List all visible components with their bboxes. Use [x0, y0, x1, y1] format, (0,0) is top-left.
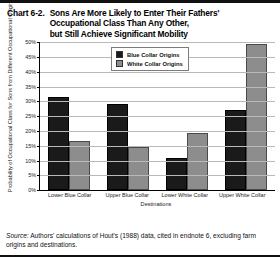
y-axis-tick-label: 50% — [25, 39, 36, 45]
title-block: Chart 6-2. Sons Are More Likely to Enter… — [0, 3, 280, 39]
source-label: Source: — [6, 232, 29, 239]
x-axis-category-label: Lower Blue Collar — [41, 192, 99, 198]
chart-title-line-1: Sons Are More Likely to Enter Their Fath… — [50, 8, 220, 18]
gridline — [40, 161, 275, 162]
gridline — [40, 175, 275, 176]
y-axis-tick-mark — [37, 131, 40, 132]
gridline — [40, 87, 275, 88]
y-axis-tick-label: 25% — [25, 113, 36, 119]
gridline — [40, 101, 275, 102]
y-axis-tick-mark — [37, 190, 40, 191]
legend-item-white-collar: White Collar Origins — [116, 60, 183, 67]
x-axis-category-label: Upper Blue Collar — [99, 192, 157, 198]
y-axis-tick-mark — [37, 101, 40, 102]
y-axis-tick-label: 45% — [25, 54, 36, 60]
y-axis-tick-label: 20% — [25, 128, 36, 134]
x-axis-category-label: Upper White Collar — [214, 192, 272, 198]
y-axis-tick-label: 35% — [25, 84, 36, 90]
y-axis-tick-mark — [37, 146, 40, 147]
legend-swatch-white-collar — [116, 60, 123, 67]
legend-label-blue-collar: Blue Collar Origins — [127, 52, 180, 58]
plot-region: Probability of Occupational Class for So… — [2, 42, 276, 210]
chart-title: Sons Are More Likely to Enter Their Fath… — [50, 8, 220, 39]
y-axis-tick-mark — [37, 42, 40, 43]
source-text: Authors' calculations of Hout's (1988) d… — [6, 232, 256, 247]
y-axis-tick-label: 40% — [25, 69, 36, 75]
legend-item-blue-collar: Blue Collar Origins — [116, 51, 183, 58]
y-axis-tick-label: 0% — [28, 187, 36, 193]
gridline — [40, 131, 275, 132]
legend-label-white-collar: White Collar Origins — [127, 61, 183, 67]
y-axis-tick-label: 5% — [28, 172, 36, 178]
y-axis-tick-label: 10% — [25, 158, 36, 164]
gridline — [40, 72, 275, 73]
chart-title-line-2: Occupational Class Than Any Other, — [50, 18, 220, 28]
bar-blue-collar — [107, 104, 128, 190]
bar-blue-collar — [166, 158, 187, 191]
chart-title-line-3: but Still Achieve Significant Mobility — [50, 29, 220, 39]
bar-white-collar — [69, 141, 90, 190]
y-axis-title-text: Probability of Occupational Class for So… — [7, 42, 14, 192]
y-axis-tick-label: 15% — [25, 143, 36, 149]
x-axis-title: Destinations — [41, 201, 271, 207]
y-axis-tick-mark — [37, 175, 40, 176]
y-axis-title: Probability of Occupational Class for So… — [2, 42, 18, 192]
x-axis-category-labels: Lower Blue CollarUpper Blue CollarLower … — [41, 192, 271, 198]
gridline — [40, 116, 275, 117]
y-axis-tick-mark — [37, 87, 40, 88]
chart-figure: Chart 6-2. Sons Are More Likely to Enter… — [0, 0, 280, 257]
bar-white-collar — [128, 147, 149, 190]
bar-blue-collar — [225, 110, 246, 190]
y-axis-tick-label: 30% — [25, 98, 36, 104]
y-axis-tick-mark — [37, 57, 40, 58]
y-axis-tick-mark — [37, 72, 40, 73]
legend-swatch-blue-collar — [116, 51, 123, 58]
legend: Blue Collar Origins White Collar Origins — [111, 47, 189, 71]
y-axis-tick-mark — [37, 116, 40, 117]
x-axis-category-label: Lower White Collar — [156, 192, 214, 198]
gridline — [40, 42, 275, 43]
y-axis-tick-mark — [37, 161, 40, 162]
gridline — [40, 146, 275, 147]
y-axis-tick-labels: 0%5%10%15%20%25%30%35%40%45%50% — [18, 42, 38, 190]
source-note: Source: Authors' calculations of Hout's … — [6, 232, 274, 249]
